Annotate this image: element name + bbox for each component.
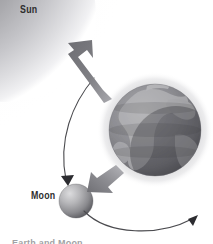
moon-label: Moon (31, 190, 56, 201)
diagram-canvas (0, 0, 213, 244)
sun-label: Sun (20, 4, 37, 15)
caption-partial-text: Earth and Moon (12, 238, 104, 244)
earth-to-moon-arrow (87, 165, 124, 193)
sun-earth-moon-diagram: Sun Moon Earth and Moon (0, 0, 213, 244)
moon-orbit-lower-arc (84, 211, 198, 231)
